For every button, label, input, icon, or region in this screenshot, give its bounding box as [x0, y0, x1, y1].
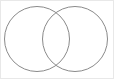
venn-diagram — [0, 0, 114, 79]
venn-diagram-canvas — [0, 0, 114, 79]
